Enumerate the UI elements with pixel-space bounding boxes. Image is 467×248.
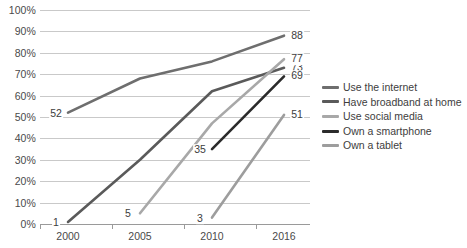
data-point-label: 69 <box>290 71 304 83</box>
legend-item[interactable]: Have broadband at home <box>322 95 467 110</box>
legend-label: Use social media <box>343 111 423 122</box>
series-line <box>212 115 284 218</box>
legend-label: Use the internet <box>343 82 417 93</box>
data-point-label: 52 <box>49 108 63 120</box>
legend-label: Have broadband at home <box>343 97 462 108</box>
legend-swatch-icon <box>322 100 339 103</box>
legend-label: Own a tablet <box>343 140 402 151</box>
legend-swatch-icon <box>322 144 339 147</box>
legend-item[interactable]: Use the internet <box>322 80 467 95</box>
legend-item[interactable]: Use social media <box>322 109 467 124</box>
data-point-label: 51 <box>290 109 304 121</box>
data-point-label: 5 <box>124 209 132 221</box>
data-point-label: 77 <box>290 53 304 65</box>
legend-swatch-icon <box>322 115 339 118</box>
line-chart: 0%10%20%30%40%50%60%70%80%90%100% 200020… <box>0 0 467 248</box>
legend-item[interactable]: Own a smartphone <box>322 124 467 139</box>
legend-swatch-icon <box>322 130 339 133</box>
legend-item[interactable]: Own a tablet <box>322 138 467 153</box>
legend: Use the internetHave broadband at homeUs… <box>322 80 467 153</box>
legend-swatch-icon <box>322 86 339 89</box>
legend-label: Own a smartphone <box>343 126 432 137</box>
series-line <box>68 68 284 222</box>
data-point-label: 35 <box>193 144 207 156</box>
series-line <box>140 59 284 213</box>
data-point-label: 88 <box>290 30 304 42</box>
data-point-label: 3 <box>196 213 204 225</box>
data-point-label: 1 <box>52 217 60 229</box>
series-line <box>68 36 284 113</box>
